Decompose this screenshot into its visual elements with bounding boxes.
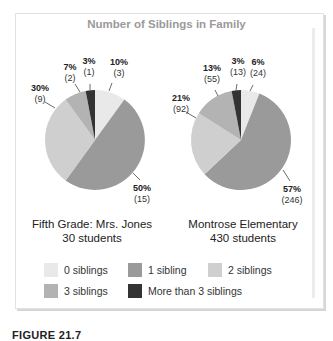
legend-item-0-siblings: 0 siblings [44, 263, 108, 277]
label-right-1-sibling: 57% (246) [277, 184, 307, 206]
label-left-1-sibling: 50% (15) [127, 183, 157, 205]
legend-swatch [44, 263, 58, 277]
label-left-2-siblings: 30% (9) [25, 83, 55, 105]
subtitle-fifth-grade: Fifth Grade: Mrs. Jones 30 students [12, 217, 172, 245]
legend-item-2-siblings: 2 siblings [208, 263, 272, 277]
legend-item-1-sibling: 1 sibling [128, 263, 187, 277]
legend-swatch [44, 284, 58, 298]
pie-montrose [186, 84, 291, 190]
label-left-0-siblings: 10% (3) [104, 57, 134, 79]
figure-caption: FIGURE 21.7 [12, 329, 81, 341]
subtitle-montrose: Montrose Elementary 430 students [163, 217, 323, 245]
label-left-more-than-3: 3% (1) [74, 56, 104, 78]
label-right-more-than-3: 3% (13) [223, 56, 253, 78]
label-right-2-siblings: 21% (92) [166, 93, 196, 115]
legend-item-3-siblings: 3 siblings [44, 284, 108, 298]
legend-swatch [208, 263, 222, 277]
pie-fifth-grade [45, 83, 145, 190]
legend-swatch [128, 263, 142, 277]
legend-item-more-than-3: More than 3 siblings [128, 284, 242, 298]
legend-swatch [128, 284, 142, 298]
